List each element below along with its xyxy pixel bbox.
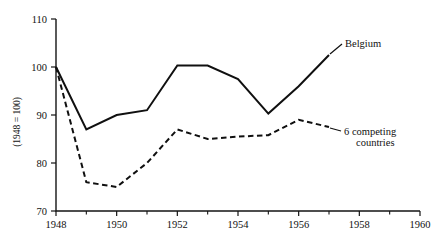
- y-axis-title: (1948 = 100): [12, 97, 23, 147]
- x-axis-tick-label: 1950: [106, 219, 127, 230]
- y-axis-tick-label: 70: [37, 206, 48, 217]
- series-label-competing-countries-line2: countries: [356, 137, 395, 148]
- line-chart: 708090100110 194819501952195419561958196…: [0, 0, 437, 246]
- x-axis-tick-label: 1958: [349, 219, 370, 230]
- x-axis-tick-label: 1948: [46, 219, 67, 230]
- series-label-belgium: Belgium: [345, 38, 381, 49]
- y-axis-tick-label: 100: [31, 62, 47, 73]
- y-axis-tick-label: 90: [37, 110, 48, 121]
- competing-countries-leader-line: [330, 128, 341, 131]
- series-label-competing-countries-line1: 6 competing: [344, 126, 397, 137]
- x-axis-tick-label: 1952: [167, 219, 188, 230]
- y-axis-tick-label: 80: [37, 158, 48, 169]
- y-axis-ticks: [51, 19, 56, 211]
- y-axis-tick-label: 110: [32, 14, 47, 25]
- belgium-leader-line: [330, 44, 342, 54]
- x-axis-tick-label: 1954: [228, 219, 250, 230]
- chart-series: [56, 55, 329, 187]
- series-annotations: Belgium 6 competing countries: [330, 38, 397, 148]
- x-axis-tick-label: 1960: [410, 219, 431, 230]
- x-axis-tick-label: 1956: [288, 219, 309, 230]
- series-line-belgium: [56, 55, 329, 129]
- chart-container: 708090100110 194819501952195419561958196…: [0, 0, 437, 246]
- x-axis-tick-labels: 1948195019521954195619581960: [46, 219, 431, 230]
- series-line-competing-countries: [56, 67, 329, 187]
- x-axis-ticks: [56, 211, 420, 216]
- y-axis-tick-labels: 708090100110: [31, 14, 47, 217]
